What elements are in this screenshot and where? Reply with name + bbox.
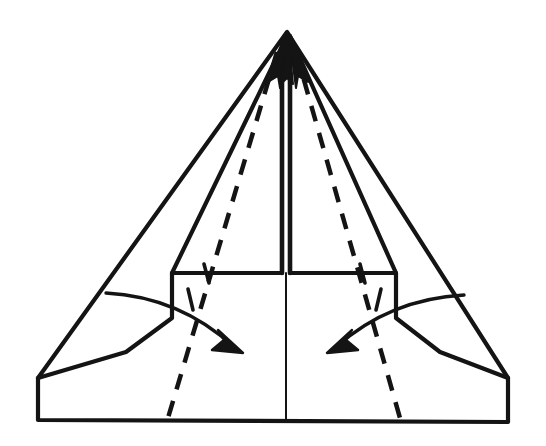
paper-fold-diagram — [0, 0, 546, 446]
diagram-canvas — [0, 0, 546, 446]
